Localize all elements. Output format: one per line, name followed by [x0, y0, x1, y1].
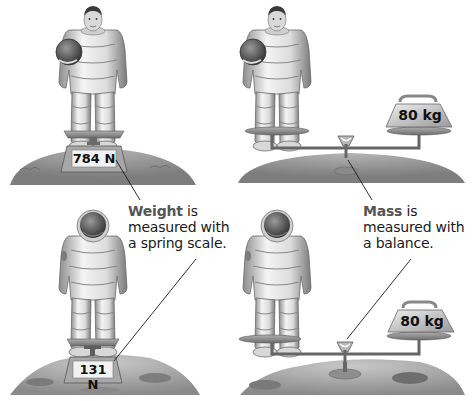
weight-caption-line-2: measured with — [128, 219, 230, 235]
spring-scale-platform — [64, 131, 124, 138]
weight-caption: Weight is measured with a spring scale. — [128, 203, 230, 251]
diagram-canvas — [0, 0, 473, 401]
balance-pan-right — [387, 127, 451, 135]
balance-pan-right — [387, 332, 451, 340]
balance-pan-left — [245, 127, 309, 135]
mass-caption-line-1: Mass is — [363, 203, 465, 219]
weight-handle — [403, 302, 436, 308]
panel-earth-balance — [238, 6, 465, 200]
panel-earth-spring-scale — [10, 6, 196, 200]
astronaut-unhelmeted-icon — [56, 6, 127, 151]
moon-balance-mass-label: 80 kg — [394, 313, 450, 329]
spring-scale-platform — [67, 339, 119, 346]
moon-spring-scale-reading: 131 N — [73, 362, 113, 392]
mass-caption-line-3: a balance. — [363, 235, 465, 251]
mass-caption-line-2: measured with — [363, 219, 465, 235]
astronaut-helmeted-icon — [59, 210, 127, 357]
weight-term: Weight — [128, 203, 183, 219]
mass-caption: Mass is measured with a balance. — [363, 203, 465, 251]
mass-term: Mass — [363, 203, 402, 219]
weight-caption-line-1: Weight is — [128, 203, 230, 219]
balance-pan-left — [239, 335, 301, 343]
weight-handle — [400, 96, 436, 102]
weight-caption-line-3: a spring scale. — [128, 235, 230, 251]
earth-spring-scale-reading: 784 N — [72, 151, 116, 166]
earth-balance-mass-label: 80 kg — [392, 107, 448, 123]
